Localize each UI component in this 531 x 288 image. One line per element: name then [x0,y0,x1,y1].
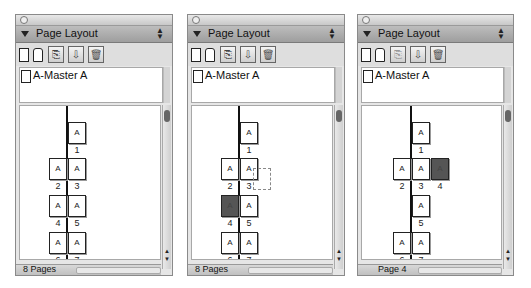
new-page-icon[interactable] [191,48,201,62]
page-thumbnail-6[interactable]: A [221,232,239,254]
page-thumbnail-5[interactable]: A [240,195,258,217]
scroll-up-arrow[interactable]: ▲ [505,248,511,255]
scroll-thumb[interactable] [164,110,170,122]
page-number-7: 7 [412,255,430,260]
toolbar: ⎘ ⇩ 🗑 [188,43,344,66]
page-number-1: 1 [240,145,258,155]
new-page-icon[interactable] [361,48,371,62]
status-bar: 8 Pages [188,264,333,275]
panel-titlebar[interactable] [16,15,172,26]
page-layout-panel-1: Page Layout ▲▼ ⎘ ⇩ 🗑 A-Master A A 1 A A … [15,14,173,276]
master-page-label[interactable]: A-Master A [33,69,87,81]
page-thumbnail-4[interactable]: A [49,195,67,217]
scroll-down-arrow[interactable]: ▼ [336,256,342,263]
status-bar: Page 4 [358,264,502,275]
panel-titlebar[interactable] [358,15,513,26]
collapse-triangle-icon[interactable] [21,31,29,37]
pages-scrollbar[interactable]: ▲ ▼ [162,105,171,269]
page-thumbnail-5[interactable]: A [412,195,430,217]
collapse-triangle-icon[interactable] [193,31,201,37]
duplicate-button[interactable]: ⎘ [220,46,236,63]
toolbar: ⎘ ⇩ 🗑 [16,43,172,66]
page-thumbnail-2[interactable]: A [49,158,67,180]
page-number-4: 4 [49,218,67,228]
scroll-thumb[interactable] [505,110,511,122]
insert-button[interactable]: ⇩ [410,46,426,63]
master-page-icon[interactable] [21,70,31,83]
duplicate-button[interactable]: ⎘ [48,46,64,63]
horizontal-scrollbar[interactable] [418,267,502,274]
page-number-2: 2 [49,181,67,191]
page-number-7: 7 [240,255,258,260]
page-thumbnail-2[interactable]: A [393,158,411,180]
master-page-label[interactable]: A-Master A [375,69,429,81]
page-thumbnail-1[interactable]: A [68,122,86,144]
new-page-icon[interactable] [19,48,29,62]
new-master-icon[interactable] [33,48,43,62]
page-number-1: 1 [412,145,430,155]
horizontal-scrollbar[interactable] [76,267,161,274]
close-icon[interactable] [362,16,370,24]
new-master-icon[interactable] [205,48,215,62]
scroll-up-arrow[interactable]: ▲ [336,248,342,255]
master-page-icon[interactable] [193,70,203,83]
page-layout-panel-2: Page Layout ▲▼ ⎘ ⇩ 🗑 A-Master A A 1 A A … [187,14,345,276]
page-thumbnail-4-selected[interactable]: A [431,158,449,180]
collapse-triangle-icon[interactable] [363,31,371,37]
pages-scrollbar[interactable]: ▲ ▼ [334,105,343,269]
close-icon[interactable] [192,16,200,24]
page-number-2: 2 [221,181,239,191]
page-layout-panel-3: Page Layout ▲▼ ⎘ ⇩ 🗑 A-Master A A 1 A A … [357,14,514,276]
master-scrollbar[interactable] [163,67,170,103]
master-page-label[interactable]: A-Master A [205,69,259,81]
page-thumbnail-4-selected[interactable]: A [221,195,239,217]
panel-tab-header[interactable]: Page Layout ▲▼ [16,26,172,43]
page-thumbnail-6[interactable]: A [393,232,411,254]
panel-title: Page Layout [208,27,270,39]
page-thumbnail-6[interactable]: A [49,232,67,254]
page-thumbnail-5[interactable]: A [68,195,86,217]
trash-button[interactable]: 🗑 [430,46,446,63]
scroll-thumb[interactable] [336,110,342,122]
status-text: 8 Pages [195,264,228,274]
panel-tab-header[interactable]: Page Layout ▲▼ [188,26,344,43]
close-icon[interactable] [20,16,28,24]
insert-button[interactable]: ⇩ [240,46,256,63]
page-number-7: 7 [68,255,86,260]
document-pages-area: A 1 A A 2 3 A A 4 5 A A 6 7 [191,105,333,260]
master-pages-list: A-Master A [191,67,335,103]
page-thumbnail-7[interactable]: A [240,232,258,254]
page-thumbnail-3[interactable]: A [412,158,430,180]
new-master-icon[interactable] [375,48,385,62]
master-scrollbar[interactable] [504,67,511,103]
page-number-6: 6 [221,255,239,260]
page-thumbnail-1[interactable]: A [240,122,258,144]
page-thumbnail-7[interactable]: A [68,232,86,254]
panel-menu-icon[interactable]: ▲▼ [156,28,164,40]
status-bar: 8 Pages [16,264,161,275]
scroll-up-arrow[interactable]: ▲ [164,248,170,255]
page-thumbnail-7[interactable]: A [412,232,430,254]
horizontal-scrollbar[interactable] [248,267,333,274]
insert-button[interactable]: ⇩ [68,46,84,63]
page-number-4: 4 [431,181,449,191]
master-scrollbar[interactable] [335,67,342,103]
page-thumbnail-3[interactable]: A [68,158,86,180]
page-thumbnail-2[interactable]: A [221,158,239,180]
panel-tab-header[interactable]: Page Layout ▲▼ [358,26,513,43]
page-thumbnail-1[interactable]: A [412,122,430,144]
page-number-2: 2 [393,181,411,191]
page-number-6: 6 [49,255,67,260]
duplicate-button[interactable]: ⎘ [390,46,406,63]
scroll-down-arrow[interactable]: ▼ [505,256,511,263]
page-number-3: 3 [412,181,430,191]
page-number-5: 5 [68,218,86,228]
panel-titlebar[interactable] [188,15,344,26]
scroll-down-arrow[interactable]: ▼ [164,256,170,263]
panel-menu-icon[interactable]: ▲▼ [497,28,505,40]
panel-menu-icon[interactable]: ▲▼ [328,28,336,40]
trash-button[interactable]: 🗑 [88,46,104,63]
pages-scrollbar[interactable]: ▲ ▼ [503,105,512,269]
trash-button[interactable]: 🗑 [260,46,276,63]
master-page-icon[interactable] [363,70,373,83]
